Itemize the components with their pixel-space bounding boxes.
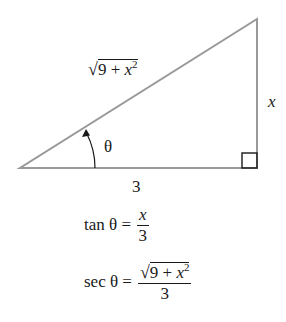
triangle: [20, 19, 257, 168]
tan-lhs: tan θ =: [84, 215, 131, 235]
angle-label: θ: [104, 138, 112, 155]
hypotenuse-label: √9 + x2: [88, 59, 138, 78]
tan-equation: tan θ = x 3: [84, 206, 149, 245]
sec-lhs: sec θ =: [84, 272, 132, 292]
opposite-side-label: x: [268, 93, 276, 110]
tan-fraction: x 3: [137, 206, 149, 245]
sec-fraction: √9 + x2 3: [138, 262, 192, 303]
arrowhead-icon: [82, 129, 90, 137]
angle-arc: [87, 133, 96, 168]
sec-equation: sec θ = √9 + x2 3: [84, 262, 191, 303]
right-triangle-figure: [0, 0, 286, 200]
right-angle-marker: [242, 153, 257, 168]
adjacent-side-label: 3: [132, 178, 141, 195]
